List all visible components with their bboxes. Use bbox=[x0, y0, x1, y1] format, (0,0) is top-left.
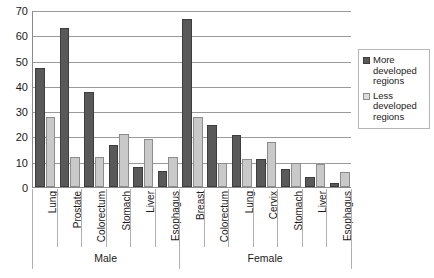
group-label: Male bbox=[32, 252, 179, 264]
category-separator bbox=[228, 189, 229, 247]
category-separator bbox=[277, 189, 278, 247]
bar-more-developed bbox=[35, 68, 45, 187]
y-tick-label: 70 bbox=[2, 6, 28, 16]
legend-item-less-developed: Lessdevelopedregions bbox=[363, 91, 426, 123]
y-tick-label: 10 bbox=[2, 158, 28, 168]
bar-less-developed bbox=[193, 117, 203, 187]
legend-item-more-developed: Moredevelopedregions bbox=[363, 55, 426, 87]
bar-group bbox=[229, 11, 254, 187]
bar-group bbox=[180, 11, 205, 187]
bar-less-developed bbox=[340, 172, 350, 187]
bar-less-developed bbox=[242, 159, 252, 187]
category-separator bbox=[57, 189, 58, 247]
bar-group bbox=[131, 11, 156, 187]
bar-group bbox=[33, 11, 58, 187]
category-separator bbox=[130, 189, 131, 247]
bar-less-developed bbox=[119, 134, 129, 187]
y-tick-label: 30 bbox=[2, 107, 28, 117]
chart-legend: Moredevelopedregions Lessdevelopedregion… bbox=[358, 49, 430, 129]
bar-less-developed bbox=[316, 164, 326, 187]
bar-more-developed bbox=[158, 171, 168, 187]
bar-more-developed bbox=[330, 183, 340, 187]
bar-more-developed bbox=[133, 167, 143, 187]
category-separator bbox=[106, 189, 107, 247]
y-tick-label: 40 bbox=[2, 82, 28, 92]
category-separator bbox=[81, 189, 82, 247]
bar-less-developed bbox=[291, 163, 301, 187]
category-separator bbox=[253, 189, 254, 247]
y-tick-label: 20 bbox=[2, 132, 28, 142]
bar-less-developed bbox=[267, 142, 277, 188]
group-separator bbox=[351, 247, 352, 269]
category-separator bbox=[155, 189, 156, 247]
bar-less-developed bbox=[144, 139, 154, 187]
y-tick-label: 50 bbox=[2, 57, 28, 67]
category-separator bbox=[351, 189, 352, 247]
category-separator bbox=[326, 189, 327, 247]
category-separator bbox=[204, 189, 205, 247]
bar-less-developed bbox=[70, 157, 80, 187]
bar-more-developed bbox=[182, 19, 192, 187]
plot-area bbox=[32, 11, 351, 188]
bar-group bbox=[107, 11, 132, 187]
legend-swatch-more-developed bbox=[363, 57, 370, 64]
bar-less-developed bbox=[218, 163, 228, 187]
bar-group bbox=[303, 11, 328, 187]
bar-group bbox=[58, 11, 83, 187]
category-separator bbox=[179, 189, 180, 247]
bar-group bbox=[254, 11, 279, 187]
y-tick-label: 0 bbox=[2, 183, 28, 193]
bar-more-developed bbox=[109, 145, 119, 187]
bar-group bbox=[82, 11, 107, 187]
group-label: Female bbox=[179, 252, 351, 264]
legend-label-less-developed: Lessdevelopedregions bbox=[373, 91, 417, 123]
bar-group bbox=[156, 11, 181, 187]
category-separator bbox=[302, 189, 303, 247]
bar-group bbox=[278, 11, 303, 187]
category-separator bbox=[32, 189, 33, 247]
y-tick-label: 60 bbox=[2, 31, 28, 41]
bars-layer bbox=[33, 11, 351, 187]
bar-chart: 706050403020100 LungProstateColorectumSt… bbox=[0, 0, 434, 278]
bar-less-developed bbox=[168, 157, 178, 187]
bar-group bbox=[205, 11, 230, 187]
bar-less-developed bbox=[95, 157, 105, 187]
bar-more-developed bbox=[232, 135, 242, 187]
bar-group bbox=[327, 11, 352, 187]
legend-label-more-developed: Moredevelopedregions bbox=[373, 55, 417, 87]
bar-more-developed bbox=[207, 125, 217, 187]
legend-swatch-less-developed bbox=[363, 93, 370, 100]
bar-more-developed bbox=[256, 159, 266, 187]
bar-more-developed bbox=[84, 92, 94, 187]
y-axis: 706050403020100 bbox=[0, 11, 28, 189]
bar-less-developed bbox=[46, 117, 56, 187]
bar-more-developed bbox=[281, 169, 291, 187]
bar-more-developed bbox=[305, 177, 315, 187]
bar-more-developed bbox=[60, 28, 70, 187]
